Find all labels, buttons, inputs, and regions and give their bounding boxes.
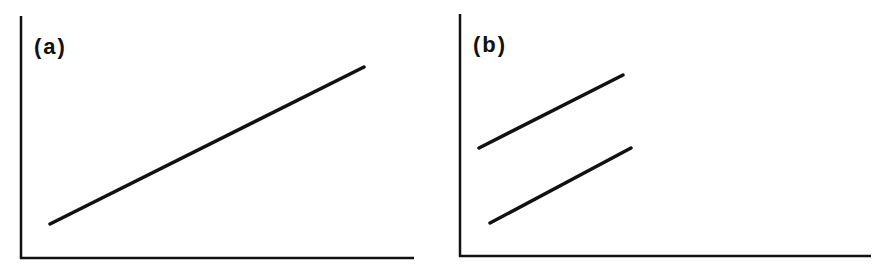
panel-b: (b) xyxy=(0,0,882,268)
data-line-lower xyxy=(490,148,631,223)
panel-b-plot xyxy=(0,0,882,268)
data-line-upper xyxy=(479,75,623,148)
panel-label-b: (b) xyxy=(473,32,507,58)
